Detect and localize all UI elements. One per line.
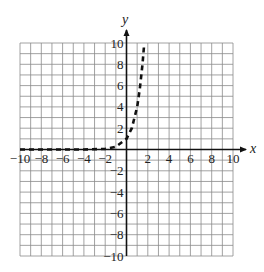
y-tick-label: −6: [110, 206, 124, 221]
x-axis-label: x: [249, 141, 257, 156]
dashed-curve: [20, 45, 144, 149]
y-tick-label: −10: [103, 249, 123, 264]
y-tick-label: −4: [110, 185, 124, 200]
y-tick-label: 8: [117, 57, 124, 72]
y-tick-label: −8: [110, 227, 124, 242]
y-axis-label: y: [120, 12, 129, 27]
y-tick-label: 2: [117, 121, 124, 136]
axes: [20, 29, 247, 256]
y-tick-label: 10: [111, 36, 124, 51]
x-tick-label: 6: [187, 151, 194, 166]
y-tick-label: 4: [117, 99, 124, 114]
y-tick-label: −2: [110, 163, 124, 178]
x-tick-label: −6: [56, 151, 70, 166]
x-tick-label: 10: [227, 151, 240, 166]
x-tick-label: −4: [77, 151, 91, 166]
x-tick-label: 2: [145, 151, 152, 166]
y-tick-label: 6: [117, 78, 124, 93]
coordinate-plane: −10−8−6−4−2246810108642−2−4−6−8−10 x y: [0, 0, 264, 272]
x-tick-label: 4: [166, 151, 173, 166]
x-tick-label: −8: [34, 151, 48, 166]
x-tick-label: 8: [208, 151, 215, 166]
x-tick-label: −10: [10, 151, 30, 166]
